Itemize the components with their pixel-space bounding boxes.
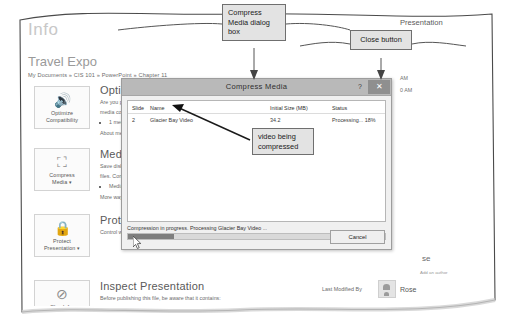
optimize-compatibility-label-2: Compatibility [35, 117, 89, 124]
dialog-body: Slide Name Initial Size (MB) Status 2 Gl… [122, 96, 391, 240]
screenshot-page: Info Travel Expo My Documents » CIS 101 … [0, 0, 510, 325]
backstage-tab-info[interactable]: Info [28, 20, 58, 40]
cell-name: Glacier Bay Video [150, 117, 270, 123]
column-header-slide: Slide [128, 105, 150, 111]
column-header-status: Status [332, 105, 385, 111]
document-title: Travel Expo [28, 54, 97, 69]
last-modified-label: Last Modified By [322, 286, 362, 292]
cell-slide: 2 [128, 117, 150, 123]
background-close-label[interactable]: se [422, 254, 430, 263]
table-header-row: Slide Name Initial Size (MB) Status [128, 101, 385, 114]
protect-presentation-label-2: Presentation ▾ [35, 245, 89, 252]
dialog-footer: Cancel [330, 225, 385, 244]
compress-media-button[interactable]: ⛶ Compress Media ▾ [34, 148, 90, 191]
compress-media-label-1: Compress [35, 172, 89, 179]
compress-media-dialog[interactable]: Compress Media ? ✕ Slide Name Initial Si… [121, 78, 392, 250]
properties-row-3: 0 AM [400, 87, 490, 94]
magnifier-document-icon: ⊘ [35, 285, 89, 304]
section-bullets: Document properties, author's name and c… [100, 305, 380, 306]
properties-row-2: AM [400, 75, 490, 82]
table-row[interactable]: 2 Glacier Bay Video 34.2 Processing... 1… [128, 114, 385, 125]
dialog-titlebar[interactable]: Compress Media ? ✕ [122, 79, 391, 96]
callout-video-being-compressed: video being compressed [252, 128, 314, 155]
section-bullet: Document properties, author's name and c… [109, 305, 380, 306]
cancel-button[interactable]: Cancel [330, 230, 385, 244]
properties-heading: Presentation [400, 18, 490, 27]
cell-size: 34.2 [270, 117, 332, 123]
check-for-issues-button[interactable]: ⊘ Check for Issues ▾ [34, 280, 90, 306]
lock-icon: 🔒 [35, 219, 89, 238]
cell-status: Processing... 18% [332, 117, 385, 123]
dialog-title: Compress Media [122, 82, 391, 91]
mouse-cursor-icon [133, 236, 142, 249]
add-author-label[interactable]: Add an author [420, 270, 448, 275]
compress-media-icon: ⛶ [35, 153, 89, 172]
optimize-compatibility-button[interactable]: 🔊 Optimize Compatibility [34, 86, 90, 129]
column-header-name: Name [150, 105, 270, 111]
media-table[interactable]: Slide Name Initial Size (MB) Status 2 Gl… [127, 100, 386, 222]
last-modified-user: Rose [400, 286, 416, 293]
compress-media-label-2: Media ▾ [35, 179, 89, 186]
column-header-size: Initial Size (MB) [270, 105, 332, 111]
help-icon[interactable]: ? [353, 81, 367, 93]
optimize-compatibility-label-1: Optimize [35, 110, 89, 117]
close-icon[interactable]: ✕ [368, 80, 390, 94]
section-body-1: Before publishing this file, be aware th… [100, 295, 380, 302]
protect-presentation-label-1: Protect [35, 238, 89, 245]
properties-pane: Presentation ry AM 0 AM [400, 18, 490, 94]
protect-presentation-button[interactable]: 🔒 Protect Presentation ▾ [34, 214, 90, 257]
callout-compress-media-dialog: Compress Media dialog box [222, 4, 286, 41]
properties-row-1: ry [400, 32, 490, 39]
check-for-issues-label-1: Check for [35, 304, 89, 306]
optimize-compatibility-icon: 🔊 [35, 91, 89, 110]
avatar [378, 280, 396, 298]
section-inspect-presentation: Inspect Presentation Before publishing t… [100, 280, 380, 306]
callout-close-button: Close button [350, 30, 412, 50]
